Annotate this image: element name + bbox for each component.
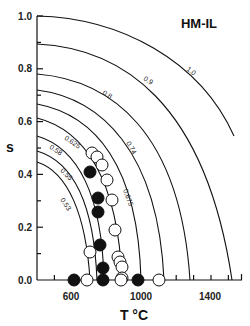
curve-label-0-9: 0.9 — [143, 75, 155, 86]
contour-0-53 — [37, 162, 90, 280]
x-tick-1400: 1400 — [199, 291, 222, 302]
open-marker — [115, 274, 127, 286]
open-marker — [81, 274, 93, 286]
filled-marker — [94, 239, 106, 251]
chart: HM-IL 1.0 0.9 0.8 0.74 0.675 0.625 0.58 … — [0, 0, 250, 326]
y-tick-0-0: 0.0 — [18, 275, 32, 286]
x-tick-labels: 600 1000 1400 — [63, 291, 222, 302]
curve-labels: 1.0 0.9 0.8 0.74 0.675 0.625 0.58 0.55 0… — [48, 65, 197, 212]
filled-marker — [92, 206, 104, 218]
curve-label-0-53: 0.53 — [59, 197, 73, 212]
x-tick-1000: 1000 — [130, 291, 153, 302]
y-tick-labels: 0.0 0.2 0.4 0.6 0.8 1.0 — [18, 11, 32, 286]
open-marker — [101, 174, 113, 186]
y-tick-0-8: 0.8 — [18, 63, 32, 74]
filled-marker — [97, 262, 109, 274]
filled-marker — [68, 274, 80, 286]
filled-marker — [97, 274, 109, 286]
x-axis-title: T °C — [120, 307, 148, 323]
open-marker — [106, 194, 118, 206]
open-marker — [109, 224, 121, 236]
filled-marker — [132, 274, 144, 286]
open-marker — [96, 159, 108, 171]
y-tick-0-4: 0.4 — [18, 169, 32, 180]
filled-marker — [92, 192, 104, 204]
y-tick-0-6: 0.6 — [18, 116, 32, 127]
contour-0-8 — [37, 74, 190, 280]
y-axis-title: s — [6, 139, 14, 155]
y-tick-0-2: 0.2 — [18, 222, 32, 233]
panel-title: HM-IL — [181, 16, 217, 31]
curve-label-0-675: 0.675 — [122, 188, 135, 207]
curve-label-0-58: 0.58 — [48, 143, 63, 157]
open-marker — [153, 274, 165, 286]
contour-1-0 — [37, 16, 234, 136]
curve-label-0-74: 0.74 — [125, 140, 138, 155]
y-tick-1-0: 1.0 — [18, 11, 32, 22]
contour-0-74 — [37, 90, 164, 280]
curve-label-0-8: 0.8 — [101, 89, 113, 100]
curve-label-1-0: 1.0 — [185, 65, 197, 77]
filled-marker — [84, 166, 96, 178]
axes — [37, 16, 242, 280]
open-marker — [116, 261, 128, 273]
x-tick-600: 600 — [63, 291, 80, 302]
